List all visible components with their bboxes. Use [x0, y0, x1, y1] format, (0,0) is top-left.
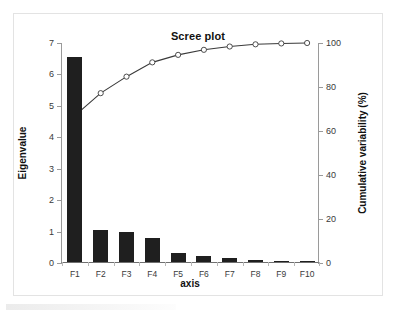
- y-axis-tick-label-left: 7: [49, 38, 54, 48]
- y-axis-label-right: Cumulative variability (%): [357, 92, 368, 214]
- bar: [196, 256, 211, 262]
- x-axis-tick: [114, 262, 115, 266]
- y-axis-tick-left: [57, 43, 62, 44]
- line-marker: [253, 42, 258, 47]
- scree-plot-chart: Scree plot 01234567020406080100F1F2F3F4F…: [13, 13, 383, 296]
- y-axis-label-left: Eigenvalue: [17, 127, 28, 180]
- bar: [274, 261, 289, 262]
- page-artifact: [6, 304, 176, 310]
- y-axis-tick-label-right: 80: [326, 82, 336, 92]
- line-marker: [98, 91, 103, 96]
- y-axis-tick-left: [57, 74, 62, 75]
- x-axis-label: axis: [61, 278, 319, 289]
- bar: [300, 261, 315, 262]
- x-axis-tick: [62, 262, 63, 266]
- x-axis-tick: [243, 262, 244, 266]
- bar: [222, 258, 237, 262]
- x-axis-tick: [88, 262, 89, 266]
- y-axis-tick-label-right: 20: [326, 214, 336, 224]
- y-axis-tick-label-left: 1: [49, 227, 54, 237]
- y-axis-tick-right: [318, 131, 323, 132]
- y-axis-tick-label-left: 4: [49, 132, 54, 142]
- line-marker: [150, 60, 155, 65]
- y-axis-tick-right: [318, 87, 323, 88]
- y-axis-tick-left: [57, 137, 62, 138]
- y-axis-tick-left: [57, 106, 62, 107]
- line-marker: [124, 74, 129, 79]
- line-marker: [201, 47, 206, 52]
- y-axis-tick-label-right: 0: [326, 258, 331, 268]
- y-axis-tick-label-right: 40: [326, 170, 336, 180]
- x-axis-tick: [294, 262, 295, 266]
- y-axis-tick-label-left: 2: [49, 195, 54, 205]
- y-axis-tick-label-left: 5: [49, 101, 54, 111]
- y-axis-tick-label-right: 100: [326, 38, 341, 48]
- y-axis-tick-label-left: 0: [49, 258, 54, 268]
- line-marker: [305, 40, 310, 45]
- y-axis-tick-right: [318, 43, 323, 44]
- plot-area: 01234567020406080100F1F2F3F4F5F6F7F8F9F1…: [61, 43, 319, 263]
- y-axis-tick-right: [318, 219, 323, 220]
- x-axis-tick: [139, 262, 140, 266]
- x-axis-tick: [165, 262, 166, 266]
- x-axis-tick: [319, 262, 320, 266]
- y-axis-tick-right: [318, 175, 323, 176]
- y-axis-tick-label-right: 60: [326, 126, 336, 136]
- line-marker: [176, 52, 181, 57]
- bar: [248, 260, 263, 262]
- line-marker: [279, 41, 284, 46]
- line-marker: [227, 44, 232, 49]
- bar: [67, 57, 82, 262]
- y-axis-tick-label-left: 6: [49, 69, 54, 79]
- bar: [119, 232, 134, 262]
- bar: [93, 230, 108, 262]
- x-axis-tick: [217, 262, 218, 266]
- cumulative-line-path: [75, 43, 307, 116]
- x-axis-tick: [268, 262, 269, 266]
- x-axis-tick: [191, 262, 192, 266]
- bar: [145, 238, 160, 263]
- y-axis-tick-left: [57, 200, 62, 201]
- y-axis-tick-label-left: 3: [49, 164, 54, 174]
- y-axis-tick-left: [57, 232, 62, 233]
- y-axis-tick-left: [57, 169, 62, 170]
- bar: [171, 253, 186, 262]
